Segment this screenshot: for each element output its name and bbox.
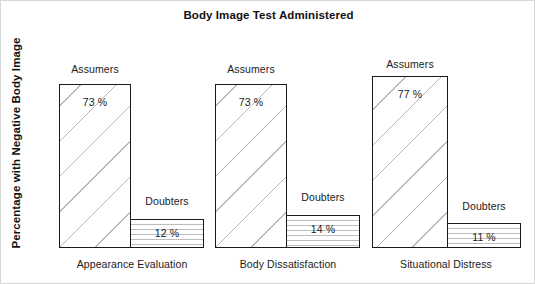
bar-assumers[interactable]: 73 % bbox=[59, 84, 131, 248]
series-label-assumers: Assumers bbox=[215, 63, 287, 75]
series-label-assumers: Assumers bbox=[59, 63, 131, 75]
bar-group-body-dissatisfaction: Assumers 73 % Doubters 14 % Body Dissati… bbox=[215, 1, 361, 284]
bar-group-situational-distress: Assumers 77 % Doubters 11 % Situational … bbox=[372, 1, 522, 284]
y-axis-label: Percentage with Negative Body Image bbox=[10, 37, 22, 248]
category-label-situational-distress: Situational Distress bbox=[370, 258, 522, 270]
bar-group-appearance-evaluation: Assumers 73 % Doubters 12 % Appearance E… bbox=[59, 1, 205, 284]
bar-assumers[interactable]: 73 % bbox=[215, 84, 287, 248]
y-axis-label-container: Percentage with Negative Body Image bbox=[3, 1, 29, 284]
bar-doubters[interactable]: 12 % bbox=[130, 219, 204, 248]
bar-doubters[interactable]: 11 % bbox=[447, 223, 521, 248]
bar-value-doubters: 14 % bbox=[287, 223, 359, 235]
bar-value-doubters: 12 % bbox=[131, 227, 203, 239]
bar-value-assumers: 77 % bbox=[373, 88, 447, 100]
category-label-body-dissatisfaction: Body Dissatisfaction bbox=[210, 258, 366, 270]
series-label-assumers: Assumers bbox=[372, 58, 448, 70]
series-label-doubters: Doubters bbox=[130, 195, 204, 207]
bar-value-doubters: 11 % bbox=[448, 231, 520, 243]
bar-value-assumers: 73 % bbox=[60, 96, 130, 108]
category-label-appearance-evaluation: Appearance Evaluation bbox=[54, 258, 210, 270]
bar-value-assumers: 73 % bbox=[216, 96, 286, 108]
series-label-doubters: Doubters bbox=[286, 191, 360, 203]
chart-figure: Body Image Test Administered Percentage … bbox=[0, 0, 535, 284]
bar-doubters[interactable]: 14 % bbox=[286, 215, 360, 248]
plot-area: Assumers 73 % Doubters 12 % Appearance E… bbox=[31, 1, 535, 284]
series-label-doubters: Doubters bbox=[447, 200, 521, 212]
bar-assumers[interactable]: 77 % bbox=[372, 76, 448, 248]
